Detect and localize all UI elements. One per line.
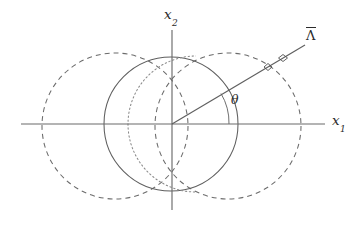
x1-axis-label: x1	[332, 112, 345, 131]
lambda-symbol: Λ	[306, 28, 315, 43]
x1-label-subscript: 1	[340, 124, 346, 134]
lambda-ray-line	[172, 45, 305, 124]
theta-arc	[221, 94, 229, 125]
x1-label-base: x	[332, 112, 340, 128]
lambda-ray-label: Λ	[306, 28, 315, 43]
theta-angle-label: θ	[231, 92, 239, 107]
x2-label-subscript: 2	[172, 18, 178, 28]
x2-label-base: x	[164, 6, 172, 22]
x2-axis-label: x2	[164, 6, 177, 25]
figure-canvas: x2 x1 θ Λ	[0, 0, 364, 229]
dashed-circle-right-curve	[155, 53, 301, 199]
dashed-circle-left-curve	[42, 53, 188, 199]
